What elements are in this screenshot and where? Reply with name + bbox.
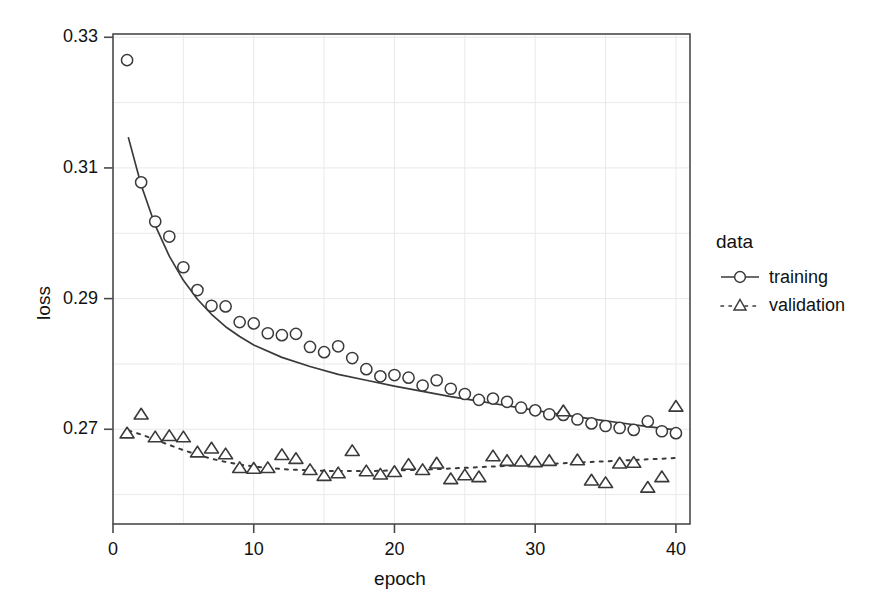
data-point-training <box>304 341 315 352</box>
legend: data training validation <box>716 232 871 319</box>
tick-marks <box>104 37 676 533</box>
x-tick-label: 30 <box>505 539 565 560</box>
data-point-training <box>670 428 681 439</box>
data-point-training <box>445 383 456 394</box>
data-point-training <box>150 216 161 227</box>
data-point-validation <box>486 450 500 461</box>
data-point-training <box>473 394 484 405</box>
data-point-training <box>459 388 470 399</box>
y-tick-label: 0.31 <box>28 157 98 178</box>
data-point-validation <box>613 457 627 468</box>
data-point-training <box>501 396 512 407</box>
x-tick-label: 0 <box>83 539 143 560</box>
data-point-training <box>600 420 611 431</box>
data-point-training <box>586 418 597 429</box>
x-axis-label: epoch <box>0 568 800 590</box>
data-point-validation <box>359 465 373 476</box>
x-tick-label: 10 <box>224 539 284 560</box>
data-point-validation <box>190 446 204 457</box>
data-point-validation <box>219 448 233 459</box>
data-point-validation <box>585 474 599 485</box>
data-point-validation <box>641 481 655 492</box>
x-tick-label: 20 <box>364 539 424 560</box>
data-point-training <box>121 55 132 66</box>
data-point-validation <box>430 457 444 468</box>
series-markers-validation <box>120 400 683 492</box>
data-point-validation <box>514 455 528 466</box>
data-point-training <box>417 380 428 391</box>
data-point-validation <box>345 445 359 456</box>
data-point-training <box>389 369 400 380</box>
data-point-validation <box>261 462 275 473</box>
loss-vs-epoch-chart: epoch loss 0102030400.270.290.310.33 dat… <box>0 0 877 611</box>
legend-label-training: training <box>769 268 828 286</box>
data-point-training <box>248 318 259 329</box>
x-tick-label: 40 <box>646 539 706 560</box>
data-point-training <box>290 328 301 339</box>
data-point-validation <box>289 453 303 464</box>
y-tick-label: 0.27 <box>28 418 98 439</box>
data-point-validation <box>331 467 345 478</box>
data-point-training <box>333 341 344 352</box>
legend-title: data <box>716 232 871 251</box>
data-point-training <box>544 409 555 420</box>
series-markers-training <box>121 55 681 439</box>
data-point-training <box>220 301 231 312</box>
data-point-training <box>319 347 330 358</box>
legend-item-validation[interactable]: validation <box>720 291 871 319</box>
data-point-validation <box>655 471 669 482</box>
data-point-training <box>347 352 358 363</box>
legend-key-validation-icon <box>720 293 760 317</box>
data-point-validation <box>444 473 458 484</box>
legend-item-training[interactable]: training <box>720 263 871 291</box>
legend-key-training-icon <box>720 265 760 289</box>
data-point-training <box>206 300 217 311</box>
data-point-validation <box>627 457 641 468</box>
data-point-validation <box>387 466 401 477</box>
data-point-training <box>178 262 189 273</box>
data-point-training <box>572 414 583 425</box>
data-point-training <box>262 328 273 339</box>
data-point-validation <box>275 449 289 460</box>
legend-label-validation: validation <box>769 296 845 314</box>
data-point-training <box>403 372 414 383</box>
data-point-validation <box>317 470 331 481</box>
y-tick-label: 0.29 <box>28 288 98 309</box>
data-point-training <box>375 371 386 382</box>
data-point-training <box>164 231 175 242</box>
data-point-validation <box>134 408 148 419</box>
data-point-training <box>234 317 245 328</box>
data-point-training <box>656 426 667 437</box>
data-point-training <box>361 364 372 375</box>
data-point-training <box>487 393 498 404</box>
data-point-validation <box>303 464 317 475</box>
data-point-validation <box>500 455 514 466</box>
data-point-training <box>192 285 203 296</box>
data-point-validation <box>599 477 613 488</box>
data-point-validation <box>570 454 584 465</box>
data-point-training <box>628 424 639 435</box>
data-point-validation <box>162 430 176 441</box>
data-point-training <box>136 177 147 188</box>
data-point-validation <box>148 431 162 442</box>
data-point-validation <box>528 456 542 467</box>
y-tick-label: 0.33 <box>28 26 98 47</box>
data-point-validation <box>542 455 556 466</box>
data-point-training <box>530 405 541 416</box>
data-point-validation <box>669 400 683 411</box>
data-point-training <box>276 330 287 341</box>
data-point-validation <box>458 469 472 480</box>
data-point-validation <box>205 442 219 453</box>
data-point-training <box>614 422 625 433</box>
fit-line-training <box>128 138 675 430</box>
data-point-validation <box>402 459 416 470</box>
data-point-validation <box>472 471 486 482</box>
data-point-validation <box>556 405 570 416</box>
data-point-validation <box>416 464 430 475</box>
data-point-training <box>642 416 653 427</box>
data-point-training <box>516 402 527 413</box>
data-point-training <box>431 375 442 386</box>
data-point-validation <box>176 431 190 442</box>
